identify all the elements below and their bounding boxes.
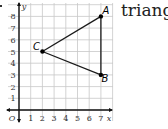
y-axis-arrow-icon	[17, 2, 21, 6]
y-tick-label: 5	[10, 48, 15, 57]
point-C	[40, 49, 44, 53]
y-tick-label: 8	[10, 12, 15, 21]
y-tick-label: 2	[10, 83, 15, 92]
point-label-B: B	[101, 73, 108, 84]
y-tick-label: 1	[10, 94, 15, 103]
x-axis-arrow-left-icon	[6, 108, 10, 112]
grid	[8, 3, 113, 121]
y-tick-label: 3	[10, 71, 15, 80]
x-tick-label: 5	[75, 114, 80, 123]
x-tick-label: 6	[87, 114, 92, 123]
point-label-A: A	[101, 5, 109, 16]
x-tick-label: 1	[28, 114, 33, 123]
y-axis-arrow-down-icon	[17, 119, 21, 123]
x-tick-label: 7	[98, 114, 103, 123]
caption-triangle: triangle	[121, 0, 168, 20]
x-axis-label: x	[107, 114, 112, 123]
origin-label: O	[9, 114, 16, 123]
y-tick-label: 4	[10, 59, 15, 68]
segment-CA	[42, 16, 101, 51]
x-tick-label: 4	[63, 114, 68, 123]
y-tick-label: 6	[10, 36, 15, 45]
y-axis-label: y	[21, 2, 27, 11]
y-tick-label: 7	[10, 24, 15, 33]
point-label-C: C	[33, 41, 40, 52]
x-tick-label: 3	[52, 114, 57, 123]
x-tick-label: 2	[40, 114, 45, 123]
